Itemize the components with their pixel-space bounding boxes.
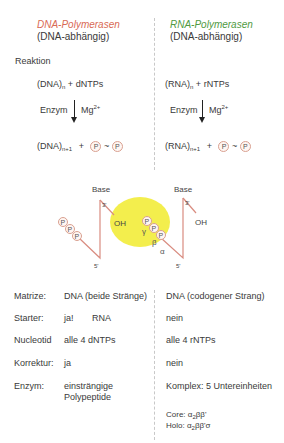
dna-korrektur: ja [64,358,71,368]
rna-nucleotid: alle 4 rNTPs [166,335,216,345]
rna-cofactor: Mg2+ [209,104,228,115]
left-triphosphate: P P P [59,218,82,241]
mg-label: Mg [209,105,222,115]
svg-text:Base: Base [92,185,111,194]
column-divider-top [154,18,155,170]
svg-text:3': 3' [185,200,189,206]
svg-text:α: α [160,247,165,256]
rna-core-composition: Core: α2ββ' [166,410,207,420]
rna-reaction-arrow [202,100,203,118]
dna-polymerase-title: DNA-Polymerasen [37,19,120,30]
dna-starter: ja! [64,313,74,323]
row-label-korrektur: Korrektur: [14,358,54,368]
phosphate-icon: P [90,141,101,152]
dna-nucleotid: alle 4 dNTPs [64,335,116,345]
dna-reaction-substrate: (DNA)n + dNTPs [37,79,103,90]
rna-substrate: (RNA) [165,79,190,89]
dntps: dNTPs [76,79,104,89]
reaction-label: Reaktion [15,56,51,66]
svg-text:Base: Base [174,185,193,194]
rna-polymerase-subtitle: (DNA-abhängig) [170,31,242,42]
plus-sign: + [207,141,212,151]
phosphate-icon: P [218,141,229,152]
dna-starter-rna: RNA [92,313,111,323]
svg-text:γ: γ [142,227,146,236]
mg-charge: 2+ [222,104,229,110]
plus-sign: + [79,141,84,151]
dna-reaction-arrow [74,100,75,118]
rntps: rNTPs [204,79,230,89]
tilde: ~ [104,141,109,151]
rna-holo-composition: Holo: α2ββ'σ [166,421,211,431]
svg-text:5': 5' [94,263,98,269]
rna-starter: nein [166,313,183,323]
dna-reaction-product: (DNA)n+1 + P ~ P [37,141,123,152]
dna-enzym-line2: Polypeptide [64,392,111,402]
svg-text:P: P [75,233,80,240]
svg-text:P: P [61,219,66,226]
left-nucleotide [79,200,114,258]
rna-polymerase-title: RNA-Polymerasen [170,19,253,30]
svg-text:P: P [68,226,73,233]
phosphate-icon: P [112,141,123,152]
dna-product: (DNA) [37,141,62,151]
core-prefix: Core: α [166,410,192,419]
svg-text:P: P [159,232,164,239]
row-label-enzym: Enzym: [14,381,44,391]
svg-text:OH: OH [195,218,207,227]
row-label-nucleotid: Nucleotid [14,335,52,345]
svg-text:5': 5' [176,263,180,269]
mg-charge: 2+ [94,104,101,110]
dna-cofactor: Mg2+ [81,104,100,115]
dna-substrate-sub: n [62,84,65,90]
mechanism-diagram: P P P P P P γ β α Base Base 3' 3' OH OH … [0,170,284,270]
svg-text:3': 3' [102,202,106,208]
rna-reaction-product: (RNA)n+1 + P ~ P [165,141,251,152]
plus-sign: + [196,79,201,89]
dna-substrate: (DNA) [37,79,62,89]
dna-product-sub: n+1 [62,146,72,152]
rna-korrektur: nein [166,358,183,368]
core-suffix: ββ' [196,410,207,419]
holo-suffix: ββ'σ [195,421,211,430]
rna-enzym: Komplex: 5 Untereinheiten [166,381,272,391]
svg-text:β: β [152,238,157,247]
row-label-matrize: Matrize: [14,291,46,301]
svg-text:P: P [152,225,157,232]
holo-prefix: Holo: α [166,421,192,430]
rna-product-sub: n+1 [190,146,200,152]
tilde: ~ [232,141,237,151]
phosphate-icon: P [240,141,251,152]
dna-matrize: DNA (beide Stränge) [64,291,147,301]
svg-text:OH: OH [114,219,126,228]
plus-sign: + [68,79,73,89]
row-label-starter: Starter: [14,313,44,323]
rna-matrize: DNA (codogener Strang) [166,291,265,301]
svg-text:P: P [145,218,150,225]
dna-polymerase-subtitle: (DNA-abhängig) [37,31,109,42]
mg-label: Mg [81,105,94,115]
dna-enzyme-label: Enzym [40,105,68,115]
rna-reaction-substrate: (RNA)n + rNTPs [165,79,229,90]
rna-product: (RNA) [165,141,190,151]
column-divider-bottom [154,290,155,440]
rna-substrate-sub: n [190,84,193,90]
rna-enzyme-label: Enzym [170,105,198,115]
dna-enzym-line1: einsträngige [64,381,113,391]
